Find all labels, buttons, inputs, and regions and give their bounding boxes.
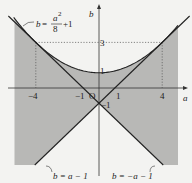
x-tick-label: −4 — [28, 91, 38, 101]
y-tick-label: 1 — [100, 66, 105, 76]
x-tick-label: −1 — [75, 91, 85, 101]
parabola-label: b = a 2 8 +1 — [36, 10, 73, 34]
leader-parabola — [23, 22, 34, 26]
parabola-label-lhs: b — [36, 19, 41, 29]
x-tick-label: 1 — [116, 91, 121, 101]
x-tick-label: 4 — [160, 91, 165, 101]
parabola-label-den: 8 — [53, 24, 58, 34]
parabola-label-rest: +1 — [63, 19, 73, 29]
y-tick-label: −1 — [101, 100, 111, 110]
line-neg-label: b = −a − 1 — [112, 171, 153, 181]
y-tick-label: 3 — [100, 38, 105, 48]
region-diagram: b a O −4 −1 1 4 3 1 −1 b = a 2 8 +1 b = … — [0, 0, 192, 183]
leader-line-pos — [46, 166, 52, 172]
x-axis-arrow-icon — [183, 86, 188, 90]
origin-label: O — [89, 91, 96, 101]
line-pos-label: b = a − 1 — [53, 171, 88, 181]
shaded-area — [15, 18, 179, 165]
y-axis-arrow-icon — [97, 4, 101, 9]
y-axis-label: b — [89, 9, 94, 19]
parabola-label-exp: 2 — [58, 10, 62, 18]
parabola-label-eq: = — [42, 19, 47, 29]
shaded-region — [15, 18, 179, 165]
x-axis-label: a — [183, 93, 188, 103]
